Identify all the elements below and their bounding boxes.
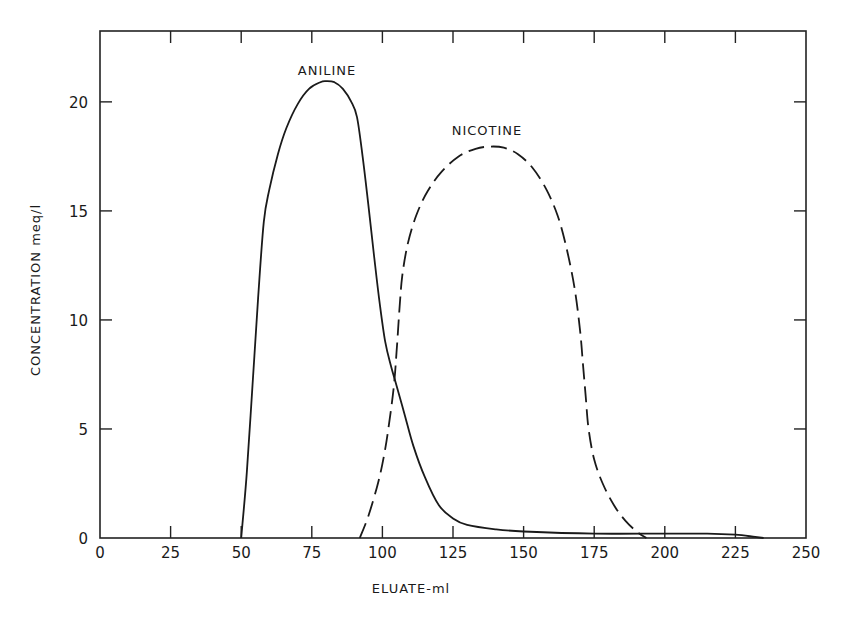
y-tick-label: 0 (78, 530, 88, 548)
aniline-curve (241, 81, 763, 538)
x-tick-label: 125 (439, 544, 468, 562)
x-axis-ticks (171, 31, 736, 538)
y-axis-tick-labels: 05101520 (69, 94, 88, 548)
x-tick-label: 100 (368, 544, 397, 562)
y-tick-label: 15 (69, 203, 88, 221)
x-tick-label: 75 (302, 544, 321, 562)
x-tick-label: 175 (580, 544, 609, 562)
x-tick-label: 50 (232, 544, 251, 562)
y-axis-ticks (100, 102, 806, 429)
aniline-label: ANILINE (298, 63, 356, 78)
plot-frame (100, 31, 806, 538)
y-tick-label: 10 (69, 312, 88, 330)
x-axis-title: ELUATE-ml (372, 581, 450, 596)
x-tick-label: 250 (792, 544, 821, 562)
x-tick-label: 25 (161, 544, 180, 562)
elution-chart: 0255075100125150175200225250 05101520 AN… (0, 0, 847, 617)
nicotine-curve (360, 147, 647, 538)
x-tick-label: 150 (509, 544, 538, 562)
y-tick-label: 20 (69, 94, 88, 112)
x-tick-label: 0 (95, 544, 105, 562)
x-tick-label: 225 (721, 544, 750, 562)
x-axis-tick-labels: 0255075100125150175200225250 (95, 544, 820, 562)
x-tick-label: 200 (650, 544, 679, 562)
nicotine-label: NICOTINE (452, 123, 523, 138)
y-axis-title: CONCENTRATION meq/l (28, 204, 43, 376)
y-tick-label: 5 (78, 421, 88, 439)
